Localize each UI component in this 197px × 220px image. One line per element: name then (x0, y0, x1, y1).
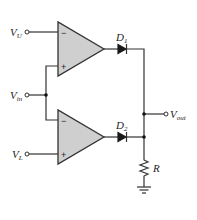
label-r: R (152, 162, 160, 174)
diode-d2-triangle (118, 133, 126, 142)
opamp-upper: − + (58, 22, 104, 76)
output-wires (104, 49, 164, 158)
label-d1: D1 (115, 31, 127, 45)
label-vl: VL (12, 148, 23, 162)
terminal-vout (164, 112, 168, 116)
junction-vin (44, 93, 48, 97)
terminal-vu (25, 30, 29, 34)
diode-d2 (118, 132, 127, 142)
junction-vout (142, 112, 146, 116)
opamp-lower-inverting-sign: − (61, 116, 66, 126)
wire-vin-bus (46, 66, 58, 120)
label-d2: D2 (115, 119, 128, 133)
diode-d1-triangle (118, 45, 126, 54)
window-comparator-circuit: − + − + VU Vin VL D1 (0, 0, 197, 220)
terminal-vl (25, 152, 29, 156)
label-vout: Vout (170, 108, 187, 122)
label-vin: Vin (10, 89, 23, 103)
opamp-lower-noninverting-sign: + (61, 150, 66, 160)
wire-right-bus (127, 49, 144, 158)
resistor-r (140, 158, 148, 187)
label-vu: VU (10, 26, 23, 40)
opamp-lower: − + (58, 110, 104, 164)
opamp-upper-inverting-sign: − (61, 28, 66, 38)
ground-icon (137, 187, 151, 193)
opamp-upper-noninverting-sign: + (61, 62, 66, 72)
junction-d2 (142, 135, 146, 139)
input-wires (29, 32, 58, 154)
terminal-vin (25, 93, 29, 97)
diode-d1 (118, 44, 127, 54)
